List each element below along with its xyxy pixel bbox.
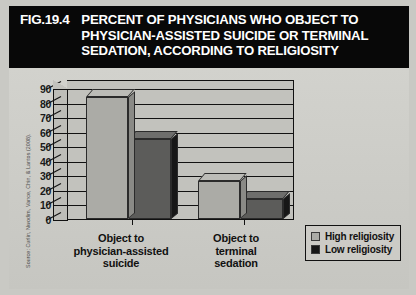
category-label-line: physician-assisted xyxy=(51,245,191,258)
category-label-line: Object to xyxy=(51,232,191,245)
legend-item: Low religiosity xyxy=(311,243,396,256)
bar-top-face xyxy=(86,89,135,97)
depth-wall-gridline xyxy=(54,191,68,192)
bar-front-face xyxy=(241,199,283,219)
chart-depth-wall xyxy=(53,89,68,220)
depth-wall-gridline xyxy=(54,104,68,105)
category-label-line: sedation xyxy=(181,257,291,270)
figure-title-line-1: PERCENT OF PHYSICIANS WHO OBJECT TO xyxy=(81,12,368,28)
bar-chart: 0102030405060708090 Object tophysician-a… xyxy=(31,89,295,237)
depth-wall-gridline xyxy=(54,205,68,206)
figure-title-line-2: PHYSICIAN-ASSISTED SUICIDE OR TERMINAL xyxy=(81,28,368,44)
legend-item-label: High religiosity xyxy=(325,231,394,242)
x-axis-tick-mark xyxy=(132,219,133,225)
chart-back-wall-top xyxy=(67,80,294,89)
bar-side-face xyxy=(128,91,135,219)
category-label-line: suicide xyxy=(51,257,191,270)
figure-title-line-3: SEDATION, ACCORDING TO RELIGIOSITY xyxy=(81,43,368,59)
legend-item-label: Low religiosity xyxy=(325,244,392,255)
bar-high-religiosity xyxy=(198,181,240,219)
plot-area xyxy=(67,89,294,220)
depth-wall-gridline xyxy=(54,89,68,90)
category-label-line: Object to xyxy=(181,232,291,245)
depth-wall-gridline xyxy=(54,118,68,119)
figure-number: FIG.19.4 xyxy=(9,11,69,27)
bar-front-face xyxy=(129,139,171,219)
bar-low-religiosity xyxy=(241,199,283,219)
legend-swatch-low-religiosity xyxy=(311,245,320,254)
bar-side-face xyxy=(240,175,247,219)
depth-wall-gridline xyxy=(54,162,68,163)
bar-side-face xyxy=(171,133,178,219)
figure-body: Source: Curlin, Nwodim, Vance, Chin, & L… xyxy=(9,68,409,289)
bar-top-face xyxy=(129,131,178,139)
depth-wall-gridline xyxy=(54,176,68,177)
depth-wall-gridline xyxy=(54,220,68,221)
figure-header-banner: FIG.19.4 PERCENT OF PHYSICIANS WHO OBJEC… xyxy=(9,6,409,68)
category-label-line: terminal xyxy=(181,245,291,258)
chart-legend: High religiosityLow religiosity xyxy=(305,225,401,261)
legend-item: High religiosity xyxy=(311,230,396,243)
x-axis-category-label: Object toterminalsedation xyxy=(181,232,291,270)
bar-front-face xyxy=(86,97,128,219)
depth-wall-gridline xyxy=(54,147,68,148)
bar-top-face xyxy=(198,173,247,181)
depth-wall-gridline xyxy=(54,133,68,134)
legend-swatch-high-religiosity xyxy=(311,232,320,241)
y-axis-labels: 0102030405060708090 xyxy=(31,89,53,220)
x-axis-tick-mark xyxy=(244,219,245,225)
chart-corner-bevel xyxy=(53,80,69,89)
bar-top-face xyxy=(241,191,290,199)
bar-high-religiosity xyxy=(86,97,128,219)
x-axis-category-label: Object tophysician-assistedsuicide xyxy=(51,232,191,270)
bar-low-religiosity xyxy=(129,139,171,219)
figure-title: PERCENT OF PHYSICIANS WHO OBJECT TO PHYS… xyxy=(81,11,368,59)
bar-front-face xyxy=(198,181,240,219)
